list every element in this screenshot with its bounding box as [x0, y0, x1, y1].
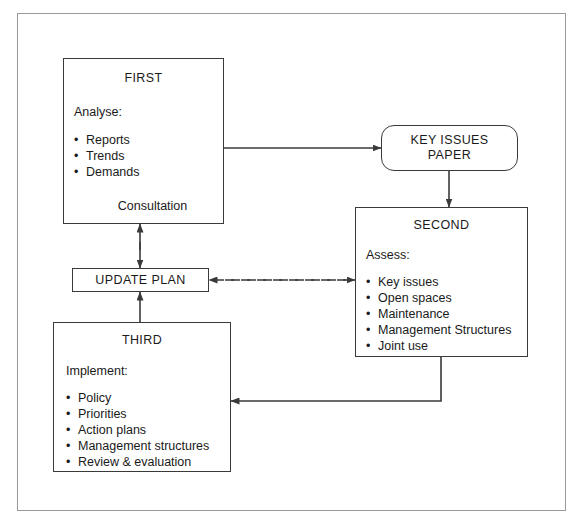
- list-item: Key issues: [366, 274, 527, 290]
- list-item: Maintenance: [366, 306, 527, 322]
- node-second-bullets: Key issues Open spaces Maintenance Manag…: [366, 274, 527, 354]
- node-second-lead: Assess:: [366, 248, 527, 262]
- node-key-issues-line1: KEY ISSUES: [410, 133, 488, 148]
- node-update-plan[interactable]: UPDATE PLAN: [72, 268, 209, 292]
- node-second-title: SECOND: [356, 218, 527, 232]
- list-item: Policy: [66, 390, 230, 406]
- node-key-issues-line2: PAPER: [410, 148, 488, 163]
- node-third-bullets: Policy Priorities Action plans Managemen…: [66, 390, 230, 470]
- node-update-plan-title: UPDATE PLAN: [95, 273, 185, 287]
- node-third[interactable]: THIRD Implement: Policy Priorities Actio…: [53, 322, 231, 472]
- node-first[interactable]: FIRST Analyse: Reports Trends Demands Co…: [63, 58, 224, 224]
- diagram-canvas: FIRST Analyse: Reports Trends Demands Co…: [0, 0, 583, 531]
- list-item: Joint use: [366, 338, 527, 354]
- list-item: Priorities: [66, 406, 230, 422]
- node-third-title: THIRD: [54, 333, 230, 347]
- node-first-footer: Consultation: [64, 199, 223, 213]
- node-third-lead: Implement:: [66, 364, 230, 378]
- node-key-issues-paper[interactable]: KEY ISSUES PAPER: [381, 125, 518, 171]
- list-item: Demands: [74, 164, 223, 180]
- list-item: Action plans: [66, 422, 230, 438]
- arrow-second-to-third: [231, 357, 441, 401]
- list-item: Review & evaluation: [66, 454, 230, 470]
- node-first-lead: Analyse:: [74, 105, 223, 119]
- list-item: Management Structures: [366, 322, 527, 338]
- node-first-title: FIRST: [64, 71, 223, 85]
- list-item: Management structures: [66, 438, 230, 454]
- list-item: Reports: [74, 132, 223, 148]
- node-second[interactable]: SECOND Assess: Key issues Open spaces Ma…: [355, 207, 528, 357]
- list-item: Open spaces: [366, 290, 527, 306]
- list-item: Trends: [74, 148, 223, 164]
- node-first-bullets: Reports Trends Demands: [74, 132, 223, 180]
- node-key-issues-title: KEY ISSUES PAPER: [410, 133, 488, 163]
